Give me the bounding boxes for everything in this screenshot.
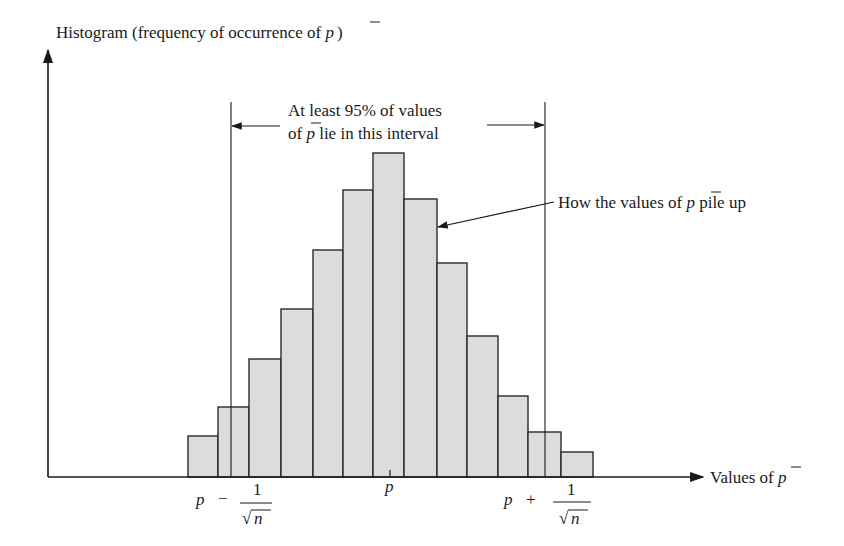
tick-label-p-minus: p − 1 √ n	[195, 480, 272, 528]
histogram-bar	[404, 199, 437, 477]
histogram-bar	[281, 309, 313, 477]
x-axis-label: Values of p	[710, 468, 786, 487]
histogram-bar	[561, 452, 593, 477]
svg-text:√: √	[242, 509, 252, 528]
histogram-bar	[218, 407, 249, 477]
svg-text:1: 1	[567, 480, 576, 499]
histogram-bar	[373, 153, 404, 477]
tick-label-p-plus: p + 1 √ n	[503, 480, 591, 528]
pile-up-pointer	[438, 202, 554, 227]
histogram-bar	[249, 359, 281, 477]
svg-text:p: p	[503, 490, 513, 509]
histogram-chart: Histogram (frequency of occurrence of p)…	[0, 0, 844, 546]
interval-annotation-line1: At least 95% of values	[288, 101, 442, 120]
svg-text:1: 1	[253, 480, 262, 499]
histogram-bar	[437, 263, 467, 477]
histogram-bar	[188, 436, 218, 477]
tick-label-p: p	[384, 477, 394, 496]
svg-text:n: n	[254, 509, 263, 528]
histogram-bar	[467, 336, 498, 477]
histogram-bar	[343, 190, 373, 477]
svg-text:n: n	[571, 509, 580, 528]
svg-text:p: p	[195, 490, 205, 509]
histogram-bar	[498, 396, 528, 477]
histogram-bars	[188, 153, 593, 477]
svg-text:√: √	[559, 509, 569, 528]
p-bar-symbol: p	[325, 23, 335, 42]
interval-annotation-line2: of p lie in this interval	[288, 124, 439, 143]
y-axis-label: Histogram (frequency of occurrence of p)	[56, 23, 343, 42]
histogram-bar	[313, 250, 343, 477]
svg-text:−: −	[218, 489, 228, 508]
pile-up-annotation: How the values of p pile up	[558, 193, 746, 212]
svg-text:+: +	[526, 490, 536, 509]
